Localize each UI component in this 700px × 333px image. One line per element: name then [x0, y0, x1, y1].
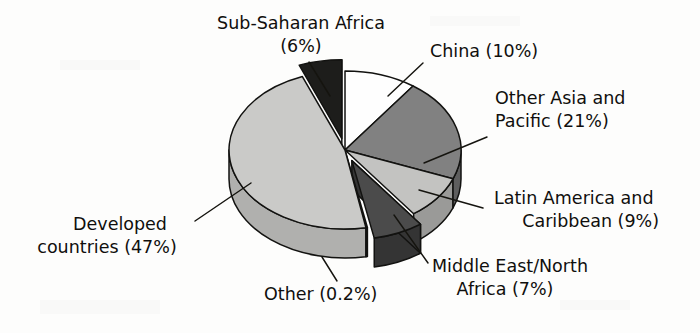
- label-other: Other (0.2%): [264, 284, 377, 304]
- label-latin-america-caribbean-line2: Caribbean (9%): [522, 211, 659, 231]
- pie-chart-svg: Sub-Saharan Africa (6%) China (10%) Othe…: [0, 0, 700, 333]
- label-developed-countries-line1: Developed: [73, 214, 167, 234]
- label-china: China (10%): [430, 41, 538, 61]
- label-sub-saharan-africa-line1: Sub-Saharan Africa: [217, 13, 385, 33]
- label-middle-east-north-africa-line2: Africa (7%): [457, 279, 554, 299]
- pie-chart-figure: Sub-Saharan Africa (6%) China (10%) Othe…: [0, 0, 700, 333]
- label-other-asia-pacific-line1: Other Asia and: [495, 88, 625, 108]
- label-sub-saharan-africa-line2: (6%): [280, 36, 321, 56]
- label-other-asia-pacific-line2: Pacific (21%): [495, 111, 609, 131]
- label-latin-america-caribbean-line1: Latin America and: [494, 188, 654, 208]
- label-middle-east-north-africa-line1: Middle East/North: [432, 256, 588, 276]
- label-developed-countries-line2: countries (47%): [37, 237, 176, 257]
- slice-wall-other: [366, 228, 367, 257]
